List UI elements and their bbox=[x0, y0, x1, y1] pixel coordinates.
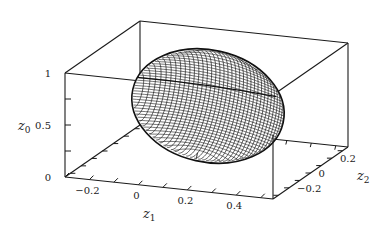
z1-tick bbox=[163, 183, 167, 187]
z1-tick-back bbox=[310, 143, 311, 147]
box-edge-back-top bbox=[140, 21, 348, 43]
z1-tick bbox=[236, 191, 240, 195]
z1-tick bbox=[138, 181, 142, 185]
z1-axis-label: z1 bbox=[142, 206, 156, 223]
z0-tick-label: 0.5 bbox=[35, 120, 51, 131]
z2-tick-label: −0.2 bbox=[297, 183, 321, 194]
z2-tick-label: 0.2 bbox=[340, 153, 356, 164]
ellipsoid-surface bbox=[121, 35, 296, 178]
z1-tick bbox=[114, 178, 118, 182]
box-edge-right-top bbox=[273, 43, 348, 95]
z2-tick-label: 0 bbox=[319, 168, 325, 179]
z1-tick-label: 0 bbox=[133, 190, 139, 201]
z1-tick-back bbox=[286, 141, 287, 145]
z1-tick bbox=[261, 194, 265, 198]
z0-axis-label: z0 bbox=[17, 118, 31, 135]
z1-tick bbox=[89, 176, 93, 180]
z1-tick-label: −0.2 bbox=[75, 185, 99, 196]
z1-tick bbox=[187, 186, 191, 190]
z1-tick-back bbox=[335, 146, 336, 150]
z2-axis-label: z2 bbox=[356, 168, 370, 185]
z0-tick-label: 1 bbox=[45, 68, 51, 79]
z0-tick-label: 0 bbox=[45, 172, 51, 183]
z1-tick-label: 0.2 bbox=[177, 195, 193, 206]
box-edge-left-top bbox=[65, 21, 140, 73]
surface-plot: −0.200.20.4−0.200.200.51 z1 z2 z0 bbox=[0, 0, 389, 231]
z1-tick bbox=[212, 189, 216, 193]
z1-tick-label: 0.4 bbox=[226, 200, 242, 211]
